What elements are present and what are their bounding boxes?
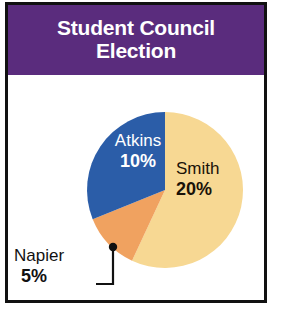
title-banner: Student Council Election (8, 5, 264, 75)
napier-leader-line (96, 249, 113, 284)
napier-leader-dot (109, 243, 117, 251)
pie-chart (8, 75, 264, 300)
pie-chart-container: Atkins 10% Smith 20% Napier 5% (8, 75, 264, 300)
infographic-card: Student Council Election Atkins 10% Smit… (5, 2, 267, 303)
page-title: Student Council Election (57, 17, 215, 62)
